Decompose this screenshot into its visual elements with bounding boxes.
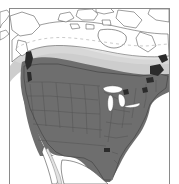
north-america-range-map bbox=[9, 8, 170, 184]
small-arctic-island-b bbox=[86, 24, 94, 29]
nova-scotia-patch bbox=[146, 77, 154, 83]
small-arctic-island-a bbox=[70, 24, 80, 29]
atlantic-coast-patch bbox=[142, 87, 148, 93]
great-lakes-dark-patch bbox=[123, 89, 129, 95]
small-arctic-island-c bbox=[102, 20, 111, 25]
lake-michigan bbox=[108, 95, 114, 111]
map-frame bbox=[9, 8, 170, 184]
gulf-coast-patch bbox=[104, 148, 110, 152]
range-map-figure bbox=[0, 0, 179, 184]
